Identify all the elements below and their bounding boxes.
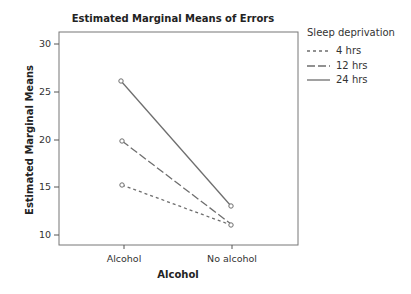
chart-title: Estimated Marginal Means of Errors	[72, 13, 275, 24]
y-tick-label: 20	[39, 134, 51, 145]
y-tick-label: 10	[39, 229, 51, 240]
y-axis: 30 25 20 15 10	[39, 38, 59, 240]
series-24hrs	[119, 79, 233, 208]
legend-label-4hrs: 4 hrs	[336, 45, 361, 56]
plot-frame	[59, 32, 298, 245]
x-tick-label: No alcohol	[207, 253, 257, 264]
x-axis: Alcohol No alcohol	[107, 245, 257, 264]
legend: Sleep deprivation 4 hrs 12 hrs 24 hrs	[307, 27, 395, 85]
y-tick-label: 15	[39, 181, 51, 192]
chart-canvas: Estimated Marginal Means of Errors 30 25…	[0, 0, 411, 294]
x-tick-label: Alcohol	[107, 253, 142, 264]
y-axis-label: Estimated Marginal Means	[24, 65, 35, 215]
legend-title: Sleep deprivation	[307, 27, 395, 38]
legend-label-24hrs: 24 hrs	[336, 74, 368, 85]
legend-label-12hrs: 12 hrs	[336, 60, 368, 71]
y-tick-label: 30	[39, 38, 51, 49]
y-tick-label: 25	[39, 86, 51, 97]
x-axis-label: Alcohol	[157, 269, 198, 280]
series-12hrs	[120, 139, 231, 224]
